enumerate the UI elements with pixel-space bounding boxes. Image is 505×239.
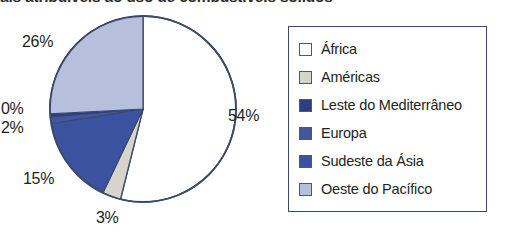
legend-swatch-icon <box>299 155 312 168</box>
legend-swatch-icon <box>299 127 312 140</box>
legend-swatch-icon <box>299 99 312 112</box>
pie-label-leste-do-mediterraneo: 0% <box>1 100 24 118</box>
legend-item-europa: Europa <box>299 119 486 147</box>
pie-chart-area: 26% 0% 2% 15% 3% 54% <box>0 0 280 239</box>
legend-swatch-icon <box>299 71 312 84</box>
legend-item-americas: Américas <box>299 63 486 91</box>
pie-label-europa: 2% <box>1 119 24 137</box>
pie-label-oeste-do-pacifico: 26% <box>22 33 53 51</box>
pie-slice-oeste-do-pacifico <box>50 16 143 114</box>
legend-label: Leste do Mediterrâneo <box>321 97 462 113</box>
legend-label: Américas <box>321 69 380 85</box>
pie-label-sudeste-da-asia: 15% <box>23 170 54 188</box>
pie-chart-svg <box>48 12 238 207</box>
legend-label: Oeste do Pacífico <box>321 181 432 197</box>
legend-item-africa: África <box>299 35 486 63</box>
legend-label: Sudeste da Ásia <box>321 153 424 169</box>
legend-label: Europa <box>321 125 367 141</box>
legend-item-sudeste-da-asia: Sudeste da Ásia <box>299 147 486 175</box>
legend-swatch-icon <box>299 183 312 196</box>
legend-item-leste-do-mediterraneo: Leste do Mediterrâneo <box>299 91 486 119</box>
legend-swatch-icon <box>299 43 312 56</box>
legend-label: África <box>321 41 357 57</box>
legend-item-oeste-do-pacifico: Oeste do Pacífico <box>299 175 486 203</box>
pie-label-africa: 54% <box>228 107 259 125</box>
pie-label-americas: 3% <box>96 209 119 227</box>
chart-legend: África Américas Leste do Mediterrâneo Eu… <box>288 26 487 212</box>
